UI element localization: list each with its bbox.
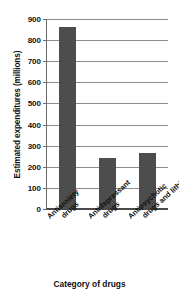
- y-tick-mark: [43, 125, 47, 126]
- y-tick-label: 200: [28, 162, 41, 171]
- y-tick-label: 800: [28, 36, 41, 45]
- plot-area: 9008007006005004003002001000: [47, 19, 168, 209]
- y-tick-mark: [43, 146, 47, 147]
- y-tick-label: 0: [37, 205, 41, 214]
- y-tick-label: 500: [28, 99, 41, 108]
- y-tick-mark: [43, 209, 47, 210]
- y-axis-line: [46, 19, 47, 210]
- y-tick-label: 900: [28, 15, 41, 24]
- y-tick-label: 300: [28, 141, 41, 150]
- y-tick-mark: [43, 82, 47, 83]
- y-tick-label: 600: [28, 78, 41, 87]
- y-tick-mark: [43, 61, 47, 62]
- y-tick-mark: [43, 167, 47, 168]
- gridline: [47, 19, 168, 20]
- y-tick-mark: [43, 40, 47, 41]
- y-tick-label: 100: [28, 183, 41, 192]
- y-tick-label: 700: [28, 57, 41, 66]
- y-tick-mark: [43, 19, 47, 20]
- x-axis-title: Category of drugs: [0, 279, 179, 289]
- y-tick-label: 400: [28, 120, 41, 129]
- y-tick-mark: [43, 188, 47, 189]
- bar-chart: Estimated expenditures (millions) 900800…: [0, 0, 179, 295]
- bar: [59, 27, 76, 209]
- y-tick-mark: [43, 103, 47, 104]
- y-axis-title: Estimated expenditures (millions): [13, 20, 22, 210]
